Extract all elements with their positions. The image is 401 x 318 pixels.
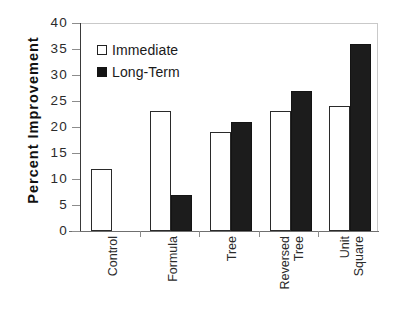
bar-immediate-tree [210,132,231,231]
x-label-line: Square [352,236,366,316]
legend: Immediate Long-Term [97,41,180,85]
bar-long-term-formula [171,195,192,231]
y-tick-label: 30 [40,67,68,82]
x-label-line: Tree [226,236,240,316]
x-label-line: Tree [293,236,307,316]
bar-immediate-control [91,169,112,231]
legend-label-long-term: Long-Term [112,64,180,80]
y-tick [72,23,80,24]
y-tick [72,179,80,180]
y-tick [72,205,80,206]
y-tick-label: 5 [40,197,68,212]
x-axis-label-control: Control [107,236,121,316]
x-label-line: Reversed [279,236,293,316]
bar-chart-figure: Percent Improvement 0510152025303540 Imm… [0,0,401,318]
x-label-line: Unit [339,236,353,316]
y-tick [72,75,80,76]
x-axis-label-reversed-tree: ReversedTree [279,236,306,316]
bar-immediate-unit-square [329,106,350,231]
open-square-icon [97,45,107,55]
y-axis-title: Percent Improvement [25,5,41,235]
x-axis-line [69,231,379,232]
bar-immediate-reversed-tree [270,111,291,231]
legend-label-immediate: Immediate [112,42,178,58]
y-tick-label: 35 [40,41,68,56]
bar-long-term-tree [231,122,252,231]
y-tick-label: 40 [40,15,68,30]
x-axis-label-tree: Tree [226,236,240,316]
y-tick [72,231,80,232]
y-tick [72,127,80,128]
y-tick-label: 15 [40,145,68,160]
y-tick [72,49,80,50]
x-axis-labels: ControlFormulaTreeReversedTreeUnitSquare [0,236,401,318]
y-tick-label: 25 [40,93,68,108]
bar-long-term-unit-square [350,44,371,231]
legend-item-immediate: Immediate [97,41,180,58]
filled-square-icon [97,67,107,77]
legend-item-long-term: Long-Term [97,63,180,80]
x-label-line: Formula [167,236,181,316]
x-label-line: Control [107,236,121,316]
y-tick-label: 20 [40,119,68,134]
x-axis-label-unit-square: UnitSquare [339,236,366,316]
bar-long-term-reversed-tree [291,91,312,231]
x-axis-label-formula: Formula [167,236,181,316]
bar-immediate-formula [150,111,171,231]
y-tick-label: 10 [40,171,68,186]
y-tick [72,101,80,102]
y-tick [72,153,80,154]
